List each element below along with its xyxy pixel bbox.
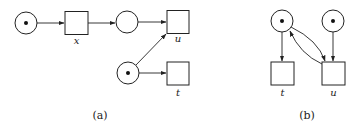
- transition-t: [271, 62, 294, 85]
- token-icon: [280, 19, 284, 23]
- transition-label-u: u: [330, 87, 336, 98]
- subfigure-b: t u (b): [271, 10, 345, 122]
- transition-label-u: u: [175, 33, 181, 44]
- caption-b: (b): [299, 109, 315, 122]
- transition-label-t: t: [280, 87, 285, 98]
- token-icon: [331, 19, 335, 23]
- transition-t: [167, 62, 189, 85]
- token-icon: [24, 21, 28, 25]
- transition-label-t: t: [176, 87, 181, 98]
- token-icon: [126, 71, 130, 75]
- subfigure-a: x u t (a): [15, 11, 189, 123]
- transition-u: [322, 62, 345, 85]
- transition-x: [65, 12, 88, 35]
- arc-p3-u: [136, 34, 166, 65]
- caption-a: (a): [92, 109, 107, 122]
- transition-u: [167, 11, 189, 34]
- transition-label-x: x: [74, 35, 80, 46]
- place-p2: [116, 11, 138, 33]
- petri-net-figure: x u t (a) t u (b): [0, 0, 361, 129]
